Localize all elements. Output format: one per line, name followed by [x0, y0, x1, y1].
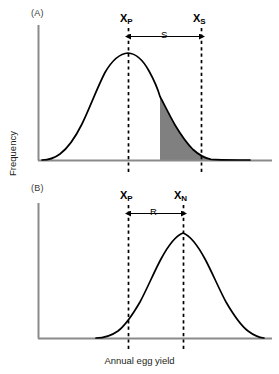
panel-a-shaded-region	[160, 97, 219, 161]
panel-a-selection-differential-label: S	[161, 29, 167, 40]
panel-b-xn-sub: N	[181, 194, 187, 203]
panel-a-xp-label: XP	[120, 12, 133, 24]
panel-a-label: (A)	[31, 8, 44, 18]
panel-b-distribution-curve	[96, 233, 264, 338]
panel-b	[38, 203, 272, 350]
y-axis-title: Frequency	[7, 118, 18, 190]
panel-b-xp-label: XP	[120, 189, 133, 201]
x-axis-title: Annual egg yield	[0, 355, 279, 366]
panel-a-xs-label: XS	[193, 12, 206, 24]
selection-response-figure: (A) (B) XP XS S XP XN R Frequency Annual…	[0, 0, 279, 374]
panel-a	[38, 25, 272, 172]
panel-a-xp-sub: P	[127, 17, 132, 26]
panel-b-response-label: R	[150, 206, 157, 217]
panel-b-xp-sub: P	[127, 194, 132, 203]
panel-b-label: (B)	[31, 183, 44, 193]
panel-b-xn-label: XN	[174, 189, 187, 201]
panel-a-xs-sub: S	[200, 17, 205, 26]
panel-a-distribution-curve	[42, 53, 250, 160]
